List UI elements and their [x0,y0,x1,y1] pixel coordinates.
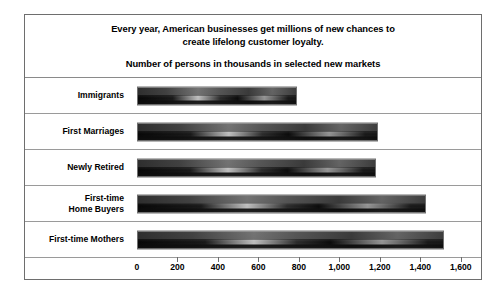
plot-area: ImmigrantsFirst MarriagesNewly RetiredFi… [25,77,481,257]
bar-track [137,150,481,185]
bar-row: Newly Retired [25,150,481,186]
bar-category-label: First Marriages [25,114,131,149]
x-axis: 02004006008001,0001,2001,4001,600 [25,257,481,281]
bar-category-label: Immigrants [25,78,131,113]
bar-category-label: Newly Retired [25,150,131,185]
x-axis-tick-label: 1,600 [450,262,472,272]
x-axis-tick-label: 1,200 [369,262,391,272]
x-axis-tick-label: 200 [170,262,184,272]
chart-title: Every year, American businesses get mill… [39,23,467,48]
chart-subtitle: Number of persons in thousands in select… [39,58,467,70]
bar [137,122,378,141]
bar-row: First-time Mothers [25,222,481,258]
bar-track [137,114,481,149]
bar-track [137,222,481,257]
x-axis-tick-label: 0 [135,262,140,272]
bar-row: Immigrants [25,78,481,114]
bar-row: First Marriages [25,114,481,150]
bar-category-label: First-time Home Buyers [25,186,131,221]
bar [137,158,376,177]
bar-row: First-time Home Buyers [25,186,481,222]
bar-track [137,78,481,113]
x-axis-tick-label: 400 [211,262,225,272]
x-axis-tick-labels: 02004006008001,0001,2001,4001,600 [137,262,481,276]
chart-header: Every year, American businesses get mill… [25,15,481,70]
bar [137,230,444,249]
chart-frame: Every year, American businesses get mill… [24,14,482,280]
bar-track [137,186,481,221]
x-axis-tick-label: 1,000 [329,262,351,272]
x-axis-tick-label: 600 [251,262,265,272]
x-axis-tick-label: 1,400 [410,262,432,272]
bar-category-label: First-time Mothers [25,222,131,257]
x-axis-tick-label: 800 [292,262,306,272]
bar [137,194,426,213]
bar [137,86,297,105]
